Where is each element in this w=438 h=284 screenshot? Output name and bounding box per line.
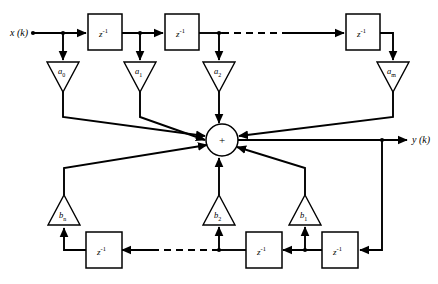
- filter-block-diagram: z-1 z-1 z-1 a0 a1 a2 am: [0, 0, 438, 284]
- wire-b1-to-sum: [237, 147, 305, 195]
- output-signal-label: y (k): [411, 134, 431, 146]
- diagram-canvas: z-1 z-1 z-1 a0 a1 a2 am: [0, 0, 438, 284]
- wire-am-to-sum: [239, 92, 393, 136]
- wire-a1-to-sum: [140, 92, 205, 140]
- input-terminal-dot: [31, 31, 35, 35]
- wire-bdelay1-to-bn: [64, 228, 86, 250]
- wire-a0-to-sum: [63, 92, 205, 136]
- input-wire: [31, 31, 86, 35]
- wire-bn-to-sum: [64, 145, 207, 195]
- wire-output-feedback: [360, 140, 382, 250]
- summing-junction-symbol: +: [219, 134, 225, 146]
- input-signal-label: x (k): [9, 27, 29, 39]
- wire-delay3-to-am: [380, 33, 393, 60]
